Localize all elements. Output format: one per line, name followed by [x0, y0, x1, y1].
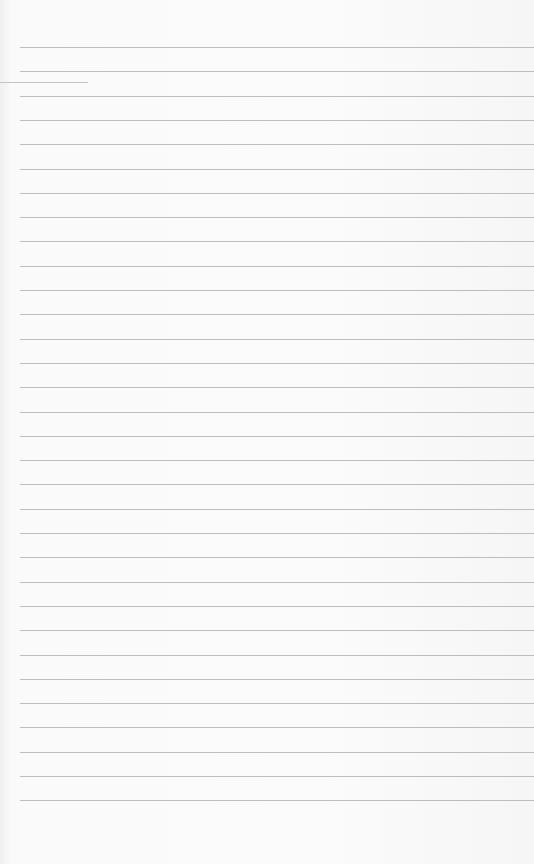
ruled-line [20, 120, 534, 121]
ruled-line [20, 339, 534, 340]
ruled-line [20, 582, 534, 583]
ruled-line [20, 630, 534, 631]
ruled-line [20, 752, 534, 753]
ruled-line [20, 363, 534, 364]
ruled-line [20, 71, 534, 72]
ruled-line [20, 436, 534, 437]
ruled-line [20, 387, 534, 388]
ruled-line [20, 241, 534, 242]
ruled-line [20, 655, 534, 656]
lined-paper [0, 0, 534, 864]
ruled-line [20, 193, 534, 194]
ruled-line [20, 703, 534, 704]
ruled-line [20, 47, 534, 48]
margin-stub-line [0, 82, 88, 83]
ruled-line [20, 484, 534, 485]
ruled-line [20, 412, 534, 413]
ruled-line [20, 509, 534, 510]
ruled-line [20, 533, 534, 534]
ruled-line [20, 144, 534, 145]
ruled-line [20, 96, 534, 97]
ruled-line [20, 169, 534, 170]
ruled-line [20, 606, 534, 607]
ruled-line [20, 727, 534, 728]
ruled-line [20, 314, 534, 315]
ruled-line [20, 557, 534, 558]
ruled-line [20, 217, 534, 218]
ruled-line [20, 800, 534, 801]
ruled-line [20, 679, 534, 680]
ruled-line [20, 290, 534, 291]
ruled-line [20, 776, 534, 777]
ruled-line [20, 266, 534, 267]
ruled-line [20, 460, 534, 461]
